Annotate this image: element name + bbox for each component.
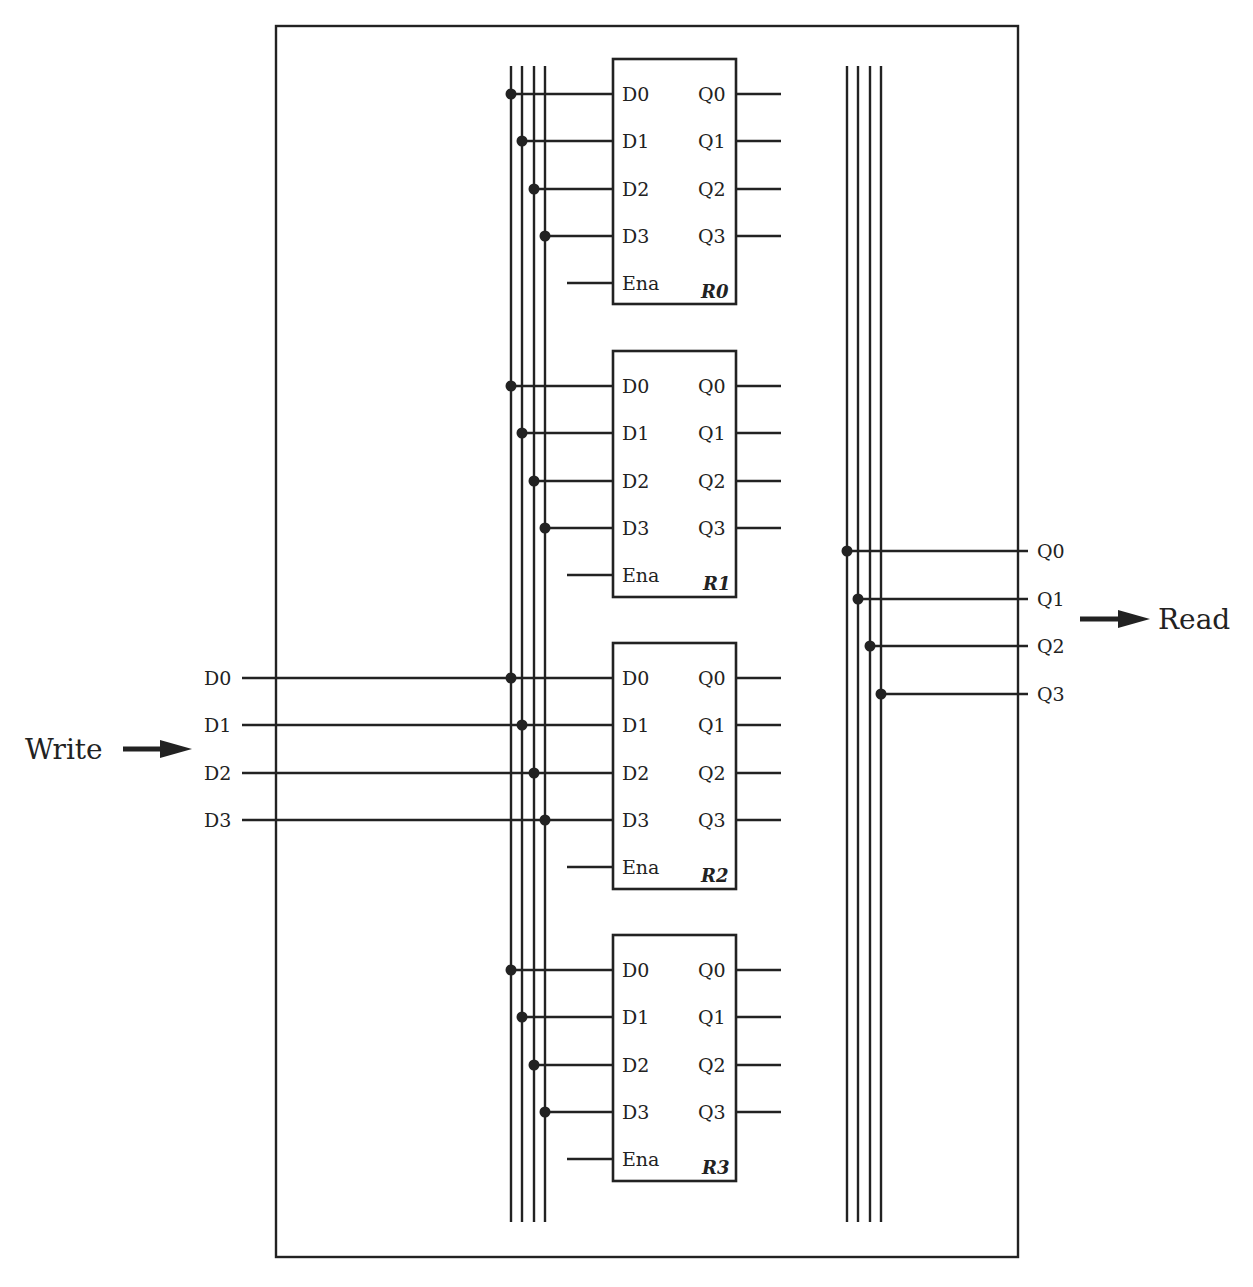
r2-enable: Ena: [622, 856, 659, 878]
write-arrow-icon: [123, 740, 192, 758]
r1-input-d2: D2: [622, 470, 649, 492]
r0-output-q0: Q0: [698, 83, 726, 105]
r2-output-q3: Q3: [698, 809, 726, 831]
write-label: Write: [25, 733, 103, 766]
r2-output-q2: Q2: [698, 762, 726, 784]
r0-output-q1: Q1: [698, 130, 726, 152]
r0-output-q2: Q2: [698, 178, 726, 200]
r0-input-d3: D3: [622, 225, 649, 247]
r3-enable: Ena: [622, 1148, 659, 1170]
r2-input-d0: D0: [622, 667, 649, 689]
write-input-d0: D0: [204, 667, 231, 689]
r1-output-q3: Q3: [698, 517, 726, 539]
r0-name: R0: [700, 281, 729, 302]
read-output-q1: Q1: [1037, 588, 1065, 610]
r0-input-d2: D2: [622, 178, 649, 200]
r2-input-d3: D3: [622, 809, 649, 831]
write-input-d2: D2: [204, 762, 231, 784]
read-arrow-icon: [1080, 610, 1150, 628]
write-bus: [511, 66, 545, 1222]
write-inputs: D0 D1 D2 D3: [204, 667, 231, 831]
r3-output-q3: Q3: [698, 1101, 726, 1123]
read-output-q0: Q0: [1037, 540, 1065, 562]
r2-output-q0: Q0: [698, 667, 726, 689]
r1-output-q0: Q0: [698, 375, 726, 397]
r0-input-d0: D0: [622, 83, 649, 105]
register-r0: D0 D1 D2 D3 Ena Q0 Q1 Q2 Q3 R0: [506, 59, 782, 304]
r3-output-q1: Q1: [698, 1006, 726, 1028]
read-output-q3: Q3: [1037, 683, 1065, 705]
r3-output-q0: Q0: [698, 959, 726, 981]
read-output-q2: Q2: [1037, 635, 1065, 657]
r3-output-q2: Q2: [698, 1054, 726, 1076]
r3-input-d1: D1: [622, 1006, 649, 1028]
register-r1: D0 D1 D2 D3 Ena Q0 Q1 Q2 Q3 R1: [506, 351, 782, 597]
r1-input-d3: D3: [622, 517, 649, 539]
write-input-d3: D3: [204, 809, 231, 831]
r3-name: R3: [701, 1157, 729, 1178]
r2-input-d2: D2: [622, 762, 649, 784]
r1-name: R1: [702, 573, 730, 594]
r1-output-q2: Q2: [698, 470, 726, 492]
r1-input-d1: D1: [622, 422, 649, 444]
r3-input-d0: D0: [622, 959, 649, 981]
r1-input-d0: D0: [622, 375, 649, 397]
r0-enable: Ena: [622, 272, 659, 294]
r1-enable: Ena: [622, 564, 659, 586]
r0-output-q3: Q3: [698, 225, 726, 247]
read-label: Read: [1158, 603, 1230, 636]
read-outputs: Q0 Q1 Q2 Q3: [842, 540, 1065, 705]
r3-input-d3: D3: [622, 1101, 649, 1123]
r2-name: R2: [700, 865, 728, 886]
register-r3: D0 D1 D2 D3 Ena Q0 Q1 Q2 Q3 R3: [506, 935, 782, 1181]
r2-input-d1: D1: [622, 714, 649, 736]
r0-input-d1: D1: [622, 130, 649, 152]
register-file-diagram: D0 D1 D2 D3 Ena Q0 Q1 Q2 Q3 R0 D0 D1 D2 …: [0, 0, 1253, 1287]
r1-output-q1: Q1: [698, 422, 726, 444]
read-bus: [847, 66, 881, 1222]
r2-output-q1: Q1: [698, 714, 726, 736]
r3-input-d2: D2: [622, 1054, 649, 1076]
write-input-d1: D1: [204, 714, 231, 736]
